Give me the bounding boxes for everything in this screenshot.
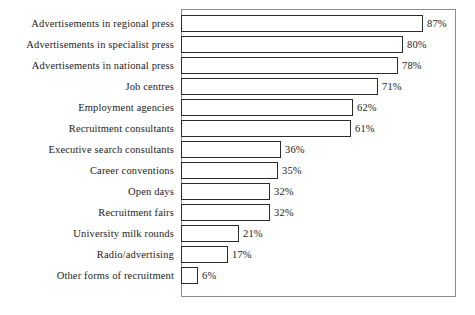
category-label: Open days bbox=[128, 181, 174, 202]
category-label: Recruitment consultants bbox=[69, 118, 174, 139]
bar bbox=[181, 225, 239, 242]
bar-value-label: 17% bbox=[232, 244, 252, 265]
bar bbox=[181, 204, 270, 221]
bar-value-label: 87% bbox=[427, 13, 447, 34]
bar bbox=[181, 120, 351, 137]
bar bbox=[181, 267, 198, 284]
bar-row: Employment agencies62% bbox=[0, 97, 475, 118]
bar-row: Career conventions35% bbox=[0, 160, 475, 181]
bar-row: Job centres71% bbox=[0, 76, 475, 97]
bar bbox=[181, 78, 378, 95]
category-label: Advertisements in national press bbox=[32, 55, 174, 76]
category-label: Radio/advertising bbox=[97, 244, 174, 265]
bar-value-label: 35% bbox=[282, 160, 302, 181]
bar-row: Recruitment consultants61% bbox=[0, 118, 475, 139]
category-label: Recruitment fairs bbox=[98, 202, 174, 223]
category-label: Career conventions bbox=[90, 160, 174, 181]
bar-value-label: 61% bbox=[355, 118, 375, 139]
bar-value-label: 36% bbox=[285, 139, 305, 160]
bar-row: Recruitment fairs32% bbox=[0, 202, 475, 223]
bar bbox=[181, 162, 278, 179]
category-label: Employment agencies bbox=[78, 97, 174, 118]
category-label: Job centres bbox=[125, 76, 174, 97]
category-label: Advertisements in regional press bbox=[31, 13, 174, 34]
category-label: University milk rounds bbox=[73, 223, 174, 244]
bar-row: Radio/advertising17% bbox=[0, 244, 475, 265]
bar bbox=[181, 183, 270, 200]
bar bbox=[181, 141, 281, 158]
bar-row: Advertisements in specialist press80% bbox=[0, 34, 475, 55]
bar-row: Advertisements in national press78% bbox=[0, 55, 475, 76]
bar-value-label: 32% bbox=[274, 181, 294, 202]
bar bbox=[181, 15, 423, 32]
category-label: Executive search consultants bbox=[49, 139, 175, 160]
category-label: Other forms of recruitment bbox=[57, 265, 174, 286]
bar-row: Advertisements in regional press87% bbox=[0, 13, 475, 34]
bar-value-label: 21% bbox=[243, 223, 263, 244]
bar-row: Executive search consultants36% bbox=[0, 139, 475, 160]
bar bbox=[181, 57, 398, 74]
bar bbox=[181, 246, 228, 263]
bar-value-label: 32% bbox=[274, 202, 294, 223]
bar-row: University milk rounds21% bbox=[0, 223, 475, 244]
bar-value-label: 62% bbox=[357, 97, 377, 118]
bar-value-label: 78% bbox=[402, 55, 422, 76]
category-label: Advertisements in specialist press bbox=[26, 34, 174, 55]
bar bbox=[181, 99, 353, 116]
bar bbox=[181, 36, 403, 53]
bar-value-label: 6% bbox=[202, 265, 216, 286]
bar-chart: Advertisements in regional press87%Adver… bbox=[0, 0, 475, 315]
bar-value-label: 80% bbox=[407, 34, 427, 55]
bar-value-label: 71% bbox=[382, 76, 402, 97]
bar-row: Open days32% bbox=[0, 181, 475, 202]
bar-row: Other forms of recruitment6% bbox=[0, 265, 475, 286]
